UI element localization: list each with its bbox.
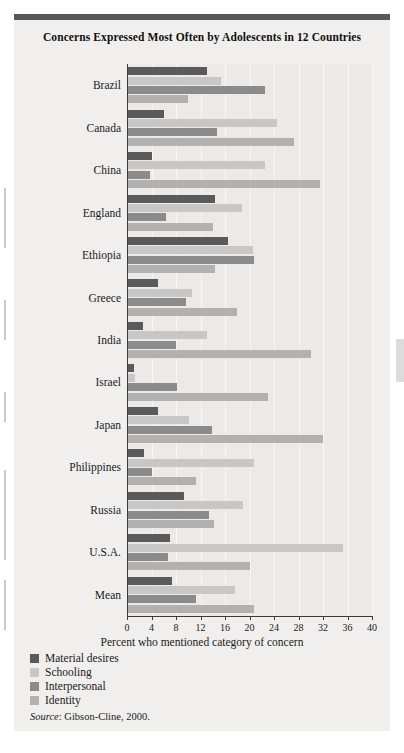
bar-materialdesires-japan [127, 407, 158, 415]
legend-item: Interpersonal [30, 679, 119, 693]
legend-swatch-icon [30, 654, 39, 663]
bar-schooling-israel [127, 374, 135, 382]
category-label-greece: Greece [88, 292, 121, 304]
source-text: : Gibson-Cline, 2000. [59, 711, 150, 722]
bar-materialdesires-china [127, 152, 152, 160]
gridline [372, 64, 373, 616]
category-label-canada: Canada [87, 122, 121, 134]
x-tick-mark [225, 616, 226, 620]
x-tick-label: 32 [311, 622, 335, 633]
bar-materialdesires-brazil [127, 67, 207, 75]
bar-identity-philippines [127, 477, 196, 485]
bar-materialdesires-philippines [127, 449, 144, 457]
legend-label: Material desires [45, 651, 119, 665]
plot-wrapper: BrazilCanadaChinaEnglandEthiopiaGreeceIn… [14, 56, 390, 624]
page-edge-mark [4, 300, 6, 340]
bar-identity-canada [127, 138, 294, 146]
x-tick-label: 24 [262, 622, 286, 633]
bar-interpersonal-mean [127, 595, 196, 603]
category-label-philippines: Philippines [69, 461, 121, 473]
bar-identity-india [127, 350, 311, 358]
page-right-scan-artifact [396, 339, 404, 382]
bar-schooling-ethiopia [127, 246, 253, 254]
bar-group: U.S.A. [127, 531, 372, 573]
bar-materialdesires-ethiopia [127, 237, 228, 245]
bar-group: Russia [127, 489, 372, 531]
x-tick-label: 28 [287, 622, 311, 633]
x-tick-label: 8 [164, 622, 188, 633]
bar-group: Israel [127, 361, 372, 403]
x-tick-mark [323, 616, 324, 620]
bar-interpersonal-greece [127, 298, 186, 306]
bar-materialdesires-canada [127, 110, 164, 118]
category-label-china: China [94, 164, 121, 176]
bar-schooling-philippines [127, 459, 254, 467]
bar-interpersonal-india [127, 341, 176, 349]
page-title: Concerns Expressed Most Often by Adolesc… [14, 31, 390, 43]
category-label-ethiopia: Ethiopia [82, 249, 121, 261]
bar-materialdesires-israel [127, 364, 134, 372]
bar-group: China [127, 149, 372, 191]
bar-group: Canada [127, 106, 372, 148]
bar-materialdesires-russia [127, 492, 184, 500]
bar-interpersonal-china [127, 171, 150, 179]
bar-schooling-greece [127, 289, 192, 297]
bar-materialdesires-usa [127, 534, 170, 542]
bar-identity-usa [127, 562, 250, 570]
legend-item: Identity [30, 693, 119, 707]
y-axis-line [127, 64, 128, 617]
category-label-russia: Russia [90, 504, 121, 516]
legend-label: Interpersonal [45, 679, 106, 693]
bar-identity-russia [127, 520, 214, 528]
legend-swatch-icon [30, 668, 39, 677]
bar-materialdesires-england [127, 195, 215, 203]
x-tick-label: 20 [238, 622, 262, 633]
bar-identity-israel [127, 393, 268, 401]
page-edge-mark [4, 188, 6, 248]
bar-schooling-india [127, 331, 207, 339]
bar-interpersonal-israel [127, 383, 177, 391]
bar-group: Brazil [127, 64, 372, 106]
bar-group: Ethiopia [127, 234, 372, 276]
bar-materialdesires-india [127, 322, 143, 330]
bar-identity-england [127, 223, 213, 231]
bar-interpersonal-canada [127, 128, 217, 136]
category-label-brazil: Brazil [93, 79, 121, 91]
chart-legend: Material desiresSchoolingInterpersonalId… [30, 651, 119, 707]
bar-identity-mean [127, 605, 254, 613]
bar-materialdesires-greece [127, 279, 158, 287]
x-tick-mark [176, 616, 177, 620]
figure-top-rule [14, 14, 390, 20]
category-label-mean: Mean [95, 589, 121, 601]
category-label-usa: U.S.A. [89, 546, 121, 558]
category-label-japan: Japan [95, 419, 121, 431]
x-tick-label: 0 [115, 622, 139, 633]
bar-schooling-russia [127, 501, 243, 509]
x-tick-mark [274, 616, 275, 620]
bar-identity-china [127, 180, 320, 188]
x-tick-mark [299, 616, 300, 620]
bar-schooling-england [127, 204, 242, 212]
x-tick-mark [152, 616, 153, 620]
bar-group: India [127, 319, 372, 361]
legend-swatch-icon [30, 696, 39, 705]
x-tick-mark [127, 616, 128, 620]
x-tick-label: 12 [189, 622, 213, 633]
bar-schooling-brazil [127, 77, 221, 85]
source-note: Source: Gibson-Cline, 2000. [30, 711, 150, 722]
bar-group: Greece [127, 276, 372, 318]
category-label-england: England [83, 207, 121, 219]
x-axis-label: Percent who mentioned category of concer… [14, 636, 390, 648]
bar-group: Mean [127, 574, 372, 616]
page-edge-mark [4, 470, 6, 560]
legend-swatch-icon [30, 682, 39, 691]
bar-group: England [127, 191, 372, 233]
legend-item: Schooling [30, 665, 119, 679]
x-tick-label: 4 [140, 622, 164, 633]
bar-schooling-mean [127, 586, 235, 594]
legend-label: Identity [45, 693, 81, 707]
legend-label: Schooling [45, 665, 92, 679]
x-tick-mark [348, 616, 349, 620]
page-edge-mark [4, 392, 6, 422]
x-tick-mark [372, 616, 373, 620]
